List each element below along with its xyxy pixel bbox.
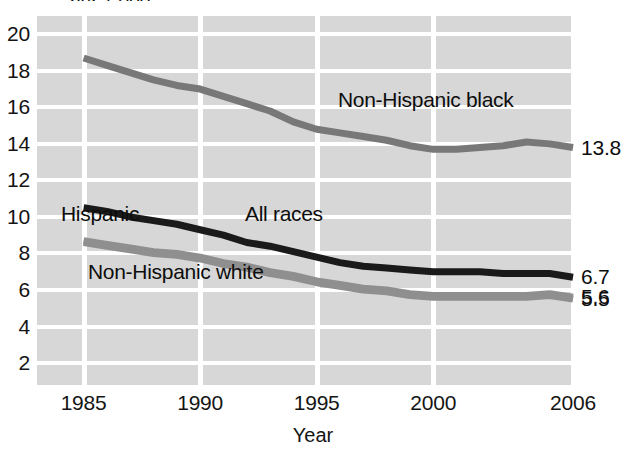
chart-title: per 1,000 — [70, 0, 150, 1]
series-end-value: 5.5 — [581, 288, 610, 309]
x-axis-title: Year — [0, 424, 626, 447]
x-axis-tick-label: 2006 — [528, 392, 618, 413]
x-axis-tick-label: 1990 — [155, 392, 245, 413]
y-axis-tick-label: 12 — [0, 169, 30, 190]
series-end-value: 13.8 — [581, 137, 621, 158]
x-axis-tick-label: 1995 — [272, 392, 362, 413]
series-label: Non-Hispanic white — [88, 261, 264, 282]
y-axis-tick-label: 8 — [0, 242, 30, 263]
series-lines — [37, 16, 573, 385]
y-axis-tick-label: 18 — [0, 60, 30, 81]
y-axis-tick-label: 4 — [0, 316, 30, 337]
x-axis-tick-label: 1985 — [39, 392, 129, 413]
x-axis-tick-label: 2000 — [388, 392, 478, 413]
y-axis-tick-label: 2 — [0, 352, 30, 373]
series-label: Non-Hispanic black — [338, 89, 514, 110]
line-chart: per 1,000 2468101214161820 1985199019952… — [0, 0, 626, 462]
series-label: Hispanic — [61, 203, 139, 224]
y-axis-tick-label: 14 — [0, 133, 30, 154]
y-axis-tick-label: 20 — [0, 23, 30, 44]
y-axis-tick-label: 6 — [0, 279, 30, 300]
plot-area — [37, 16, 573, 385]
series-end-value: 6.7 — [581, 266, 610, 287]
y-axis-tick-label: 10 — [0, 206, 30, 227]
y-axis-tick-label: 16 — [0, 96, 30, 117]
series-label: All races — [245, 203, 323, 224]
